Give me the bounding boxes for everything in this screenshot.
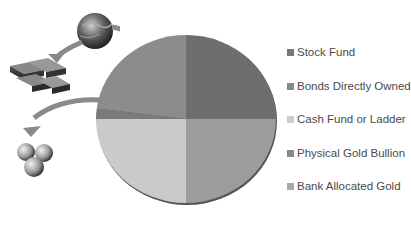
- legend-marker: [287, 83, 294, 90]
- legend-item-bonds: Bonds Directly Owned: [287, 79, 411, 113]
- legend-item-cash: Cash Fund or Ladder: [287, 112, 411, 146]
- legend-marker: [287, 49, 294, 56]
- legend-marker: [287, 116, 294, 123]
- chart-legend: Stock Fund Bonds Directly Owned Cash Fun…: [287, 45, 411, 213]
- pie-slice-bonds-directly-owned: [186, 119, 276, 203]
- legend-item-stock-fund: Stock Fund: [287, 45, 411, 79]
- pie-slice-cash-fund-or-ladder: [96, 119, 186, 203]
- pie-slice-bank-allocated-gold: [97, 35, 186, 119]
- legend-item-bank-gold: Bank Allocated Gold: [287, 179, 411, 213]
- legend-item-physical-gold: Physical Gold Bullion: [287, 146, 411, 180]
- legend-marker: [287, 150, 294, 157]
- legend-marker: [287, 183, 294, 190]
- pie-slice-stock-fund: [186, 35, 276, 119]
